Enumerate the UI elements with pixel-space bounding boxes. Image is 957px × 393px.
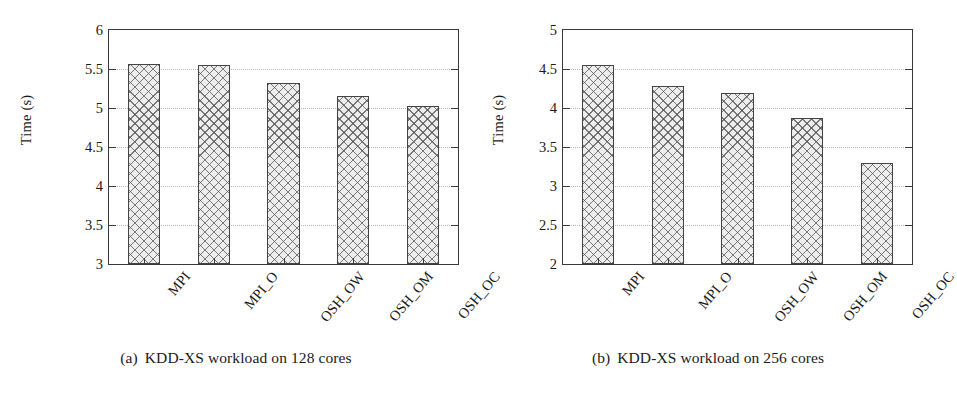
x-axis-tick-label: OSH_OM [387, 269, 436, 324]
y-axis-tick-label: 3.5 [85, 218, 103, 233]
bar [652, 86, 684, 264]
x-axis-label-wrap: MPI [619, 269, 647, 298]
y-axis-tick [109, 108, 116, 109]
y-axis-tick [109, 225, 116, 226]
bar [267, 83, 299, 264]
y-axis-tick [451, 186, 458, 187]
bar [721, 93, 753, 264]
caption-tag-b: (b) [592, 349, 610, 366]
x-axis-tick-label: OSH_OM [841, 269, 890, 324]
y-axis-tick [905, 69, 912, 70]
x-axis-label-wrap: MPI_O [241, 269, 280, 312]
caption-tag-a: (a) [120, 349, 138, 366]
bar [337, 96, 369, 264]
y-axis-tick-label: 3 [550, 179, 557, 194]
y-axis-tick [563, 69, 570, 70]
x-axis-tick [144, 258, 145, 264]
y-axis-tick [451, 69, 458, 70]
bar [128, 64, 160, 264]
y-axis-tick-label: 2 [550, 257, 557, 272]
x-axis-tick-label: MPI [165, 269, 193, 298]
x-axis-label-wrap: OSH_OW [317, 269, 367, 325]
y-axis-tick [109, 147, 116, 148]
x-axis-tick-label: MPI_O [695, 269, 734, 312]
x-axis-tick-label: MPI_O [241, 269, 280, 312]
y-axis-tick-label: 2.5 [539, 218, 557, 233]
y-axis-tick-label: 6 [96, 23, 103, 38]
x-axis-tick [738, 258, 739, 264]
y-axis-tick [905, 225, 912, 226]
caption-a: (a)KDD-XS workload on 128 cores [0, 349, 472, 367]
y-axis-tick-label: 5.5 [85, 62, 103, 77]
x-axis-tick [668, 258, 669, 264]
y-axis-label-a: Time (s) [18, 0, 42, 250]
gridline [109, 69, 458, 70]
x-axis-label-wrap: OSH_OM [841, 269, 890, 324]
x-axis-tick [353, 258, 354, 264]
bar [582, 65, 614, 264]
y-axis-tick [563, 225, 570, 226]
caption-text-b: KDD-XS workload on 256 cores [617, 349, 824, 366]
bar [791, 118, 823, 264]
y-axis-tick [451, 225, 458, 226]
y-axis-tick [109, 69, 116, 70]
plot-area-a: 33.544.555.56MPIMPI_OOSH_OWOSH_OMOSH_OC [108, 29, 459, 265]
x-axis-label-wrap: OSH_OW [771, 269, 821, 325]
y-axis-tick [109, 186, 116, 187]
y-axis-tick-label: 5 [550, 23, 557, 38]
gridline [563, 69, 912, 70]
bar [407, 106, 439, 264]
plot-area-b: 22.533.544.55MPIMPI_OOSH_OWOSH_OMOSH_OC [562, 29, 913, 265]
y-axis-tick-label: 4.5 [539, 62, 557, 77]
x-axis-tick [877, 258, 878, 264]
y-axis-tick-label: 3.5 [539, 140, 557, 155]
x-axis-label-wrap: OSH_OM [387, 269, 436, 324]
y-axis-tick [563, 108, 570, 109]
y-axis-tick-label: 5 [96, 101, 103, 116]
chart-panel-b: Time (s) 22.533.544.55MPIMPI_OOSH_OWOSH_… [472, 0, 944, 393]
x-axis-tick-label: OSH_OC [909, 269, 956, 322]
bar [861, 163, 893, 264]
y-axis-tick [905, 186, 912, 187]
y-axis-tick [905, 147, 912, 148]
x-axis-tick [807, 258, 808, 264]
x-axis-tick [598, 258, 599, 264]
caption-text-a: KDD-XS workload on 128 cores [145, 349, 352, 366]
y-axis-tick [563, 186, 570, 187]
y-axis-tick [451, 147, 458, 148]
y-axis-label-b: Time (s) [490, 0, 514, 250]
chart-panel-a: Time (s) 33.544.555.56MPIMPI_OOSH_OWOSH_… [0, 0, 472, 393]
x-axis-tick-label: MPI [619, 269, 647, 298]
y-axis-tick [563, 147, 570, 148]
y-axis-tick-label: 3 [96, 257, 103, 272]
x-axis-tick [423, 258, 424, 264]
caption-b: (b)KDD-XS workload on 256 cores [472, 349, 944, 367]
x-axis-tick-label: OSH_OW [317, 269, 367, 325]
x-axis-tick [284, 258, 285, 264]
y-axis-tick [905, 108, 912, 109]
bar [198, 65, 230, 264]
x-axis-label-wrap: MPI_O [695, 269, 734, 312]
x-axis-label-wrap: OSH_OC [909, 269, 956, 322]
y-axis-tick-label: 4 [550, 101, 557, 116]
x-axis-tick [214, 258, 215, 264]
y-axis-tick-label: 4 [96, 179, 103, 194]
y-axis-tick [451, 108, 458, 109]
y-axis-tick-label: 4.5 [85, 140, 103, 155]
x-axis-tick-label: OSH_OW [771, 269, 821, 325]
x-axis-label-wrap: MPI [165, 269, 193, 298]
